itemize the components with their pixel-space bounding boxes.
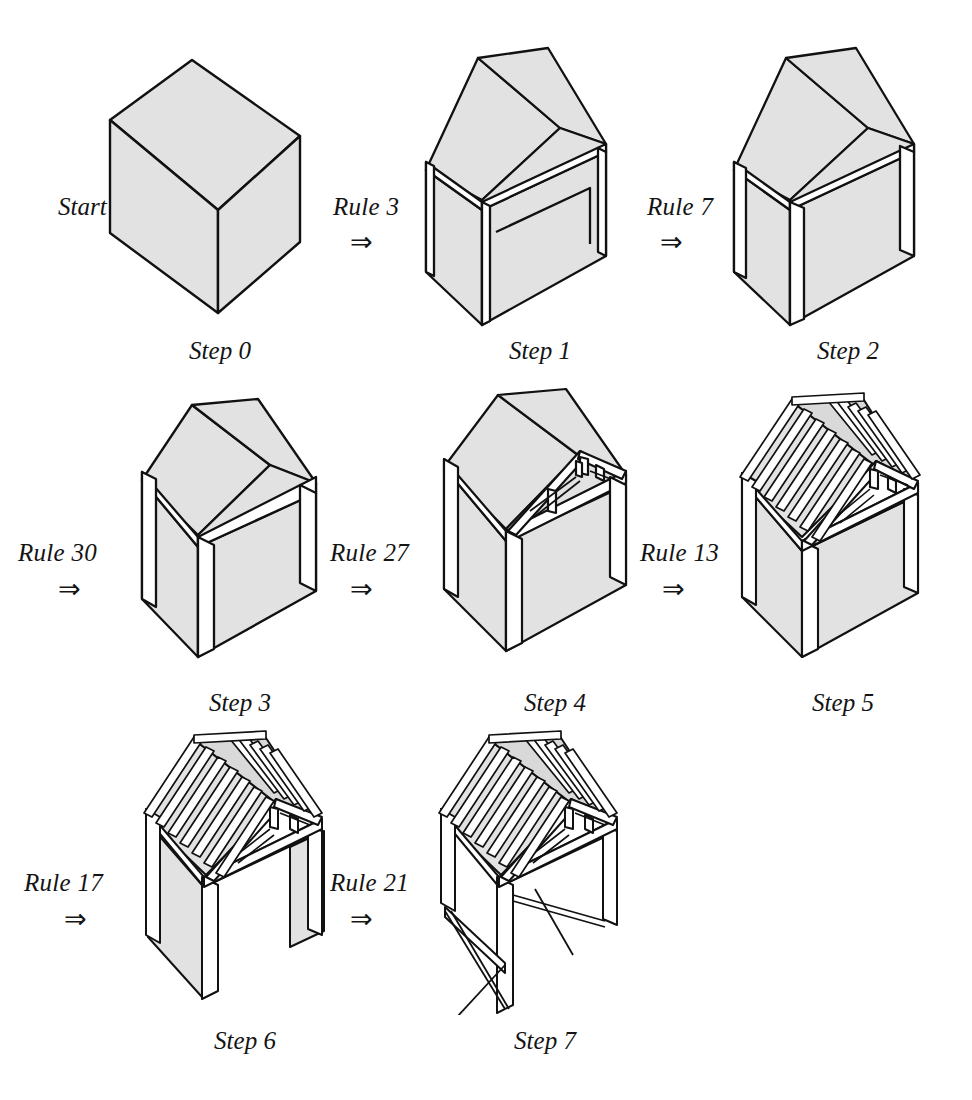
step2-drawing [728,40,968,340]
step1-drawing [420,40,660,340]
rule-label-5: Rule 13 [640,540,719,565]
rule-label-4: Rule 27 [330,540,409,565]
caption-step1: Step 1 [420,338,660,363]
derivation-arrow-4: ⇒ [350,575,373,602]
figure-step2 [728,40,968,340]
figure-step7 [405,725,685,1015]
figure-step5 [718,385,968,685]
caption-step3: Step 3 [120,690,360,715]
derivation-arrow-2: ⇒ [660,228,683,255]
caption-step4: Step 4 [430,690,680,715]
rule-label-7: Rule 21 [330,870,409,895]
derivation-arrow-6: ⇒ [64,905,87,932]
figure-step4 [430,385,680,685]
caption-step6: Step 6 [110,1028,380,1053]
caption-step5: Step 5 [718,690,968,715]
rule-label-6: Rule 17 [24,870,103,895]
step5-drawing [718,385,968,685]
figure-step0 [100,30,340,330]
derivation-arrow-7: ⇒ [350,905,373,932]
caption-step0: Step 0 [100,338,340,363]
step7-drawing [405,725,685,1015]
rule-label-1: Rule 3 [333,194,399,219]
figure-step3 [120,385,360,685]
rule-label-3: Rule 30 [18,540,97,565]
derivation-arrow-5: ⇒ [662,575,685,602]
figure-canvas: Start Step 0 Rule 3 ⇒ [0,0,972,1100]
caption-step2: Step 2 [728,338,968,363]
rule-label-2: Rule 7 [647,194,713,219]
step4-drawing [430,385,680,685]
caption-step7: Step 7 [405,1028,685,1053]
figure-step1 [420,40,660,340]
step0-drawing [100,30,340,330]
derivation-arrow-3: ⇒ [58,575,81,602]
step3-drawing [120,385,360,685]
derivation-arrow-1: ⇒ [350,228,373,255]
